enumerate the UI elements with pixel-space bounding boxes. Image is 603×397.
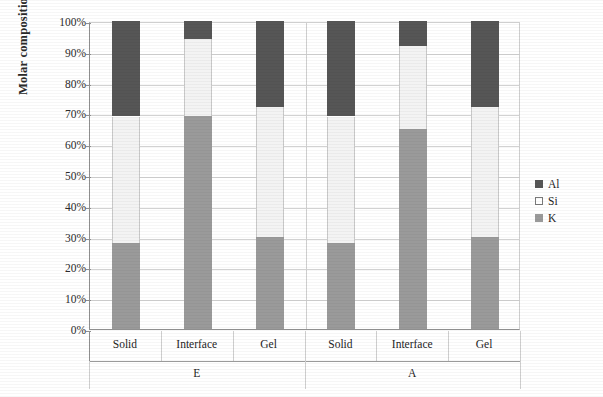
- bar-segment-al[interactable]: [184, 21, 212, 39]
- legend-label: Al: [548, 178, 560, 190]
- y-tick-mark: [86, 269, 91, 270]
- y-tick-label: 20%: [40, 262, 86, 274]
- stacked-bar[interactable]: [471, 21, 499, 329]
- category-divider: [161, 331, 162, 361]
- stacked-bar-chart-figure: Molar composition 100%90%80%70%60%50%40%…: [0, 0, 603, 397]
- plot-area: [89, 22, 520, 330]
- bar-segment-si[interactable]: [399, 46, 427, 129]
- y-tick-label: 40%: [40, 201, 86, 213]
- bar-segment-al[interactable]: [471, 21, 499, 107]
- category-divider: [520, 331, 521, 361]
- gridline: [90, 54, 519, 55]
- bar-segment-k[interactable]: [112, 243, 140, 329]
- category-labels-row: SolidInterfaceGelSolidInterfaceGel: [89, 331, 520, 361]
- y-tick-label: 30%: [40, 232, 86, 244]
- y-tick-label: 0%: [40, 324, 86, 336]
- bar-segment-k[interactable]: [399, 129, 427, 329]
- y-tick-label: 10%: [40, 293, 86, 305]
- y-tick-label: 70%: [40, 108, 86, 120]
- y-tick-label: 90%: [40, 47, 86, 59]
- gridline: [90, 208, 519, 209]
- stacked-bar[interactable]: [327, 21, 355, 329]
- category-label: Gel: [448, 331, 520, 361]
- category-label: Solid: [305, 331, 377, 361]
- category-divider: [89, 331, 90, 361]
- bar-segment-k[interactable]: [184, 116, 212, 329]
- stacked-bar[interactable]: [184, 21, 212, 329]
- y-axis-title: Molar composition: [16, 0, 31, 95]
- y-tick-mark: [86, 85, 91, 86]
- group-divider: [89, 361, 90, 389]
- bar-segment-si[interactable]: [184, 39, 212, 116]
- y-tick-mark: [86, 239, 91, 240]
- bar-segment-k[interactable]: [471, 237, 499, 329]
- legend-swatch-k: [535, 214, 543, 222]
- y-tick-mark: [86, 23, 91, 24]
- gridline: [90, 146, 519, 147]
- legend-label: K: [548, 212, 556, 224]
- gridline: [90, 269, 519, 270]
- y-tick-mark: [86, 177, 91, 178]
- category-divider: [376, 331, 377, 361]
- bar-segment-al[interactable]: [256, 21, 284, 107]
- group-label: E: [89, 361, 305, 389]
- legend: AlSiK: [535, 176, 597, 227]
- group-label: A: [305, 361, 521, 389]
- y-axis-tick-labels: 100%90%80%70%60%50%40%30%20%10%0%: [38, 0, 86, 397]
- y-tick-mark: [86, 146, 91, 147]
- y-tick-mark: [86, 115, 91, 116]
- stacked-bar[interactable]: [112, 21, 140, 329]
- bar-segment-al[interactable]: [327, 21, 355, 116]
- category-label: Solid: [89, 331, 161, 361]
- bar-segment-si[interactable]: [112, 117, 140, 243]
- category-divider: [448, 331, 449, 361]
- group-divider: [520, 361, 521, 389]
- bar-segment-al[interactable]: [112, 21, 140, 116]
- legend-swatch-si: [535, 197, 543, 205]
- y-tick-label: 50%: [40, 170, 86, 182]
- stacked-bar[interactable]: [399, 21, 427, 329]
- group-divider: [305, 361, 306, 389]
- bar-segment-k[interactable]: [327, 243, 355, 329]
- category-divider: [305, 331, 306, 361]
- category-label: Gel: [233, 331, 305, 361]
- category-divider: [233, 331, 234, 361]
- bar-segment-si[interactable]: [327, 117, 355, 243]
- gridline: [90, 85, 519, 86]
- category-label: Interface: [376, 331, 448, 361]
- bar-segment-k[interactable]: [256, 237, 284, 329]
- gridline: [90, 300, 519, 301]
- y-tick-label: 80%: [40, 78, 86, 90]
- legend-item[interactable]: K: [535, 210, 597, 226]
- gridline: [90, 115, 519, 116]
- y-tick-label: 60%: [40, 139, 86, 151]
- group-separator: [306, 23, 307, 329]
- gridline: [90, 239, 519, 240]
- legend-label: Si: [548, 195, 558, 207]
- y-tick-label: 100%: [40, 16, 86, 28]
- group-labels-row: EA: [89, 361, 520, 389]
- gridline: [90, 177, 519, 178]
- legend-swatch-al: [535, 180, 543, 188]
- legend-item[interactable]: Si: [535, 193, 597, 209]
- stacked-bar[interactable]: [256, 21, 284, 329]
- category-label: Interface: [161, 331, 233, 361]
- bar-segment-al[interactable]: [399, 21, 427, 46]
- legend-item[interactable]: Al: [535, 176, 597, 192]
- y-tick-mark: [86, 208, 91, 209]
- y-tick-mark: [86, 300, 91, 301]
- bar-segment-si[interactable]: [471, 107, 499, 236]
- bar-segment-si[interactable]: [256, 107, 284, 236]
- y-tick-mark: [86, 54, 91, 55]
